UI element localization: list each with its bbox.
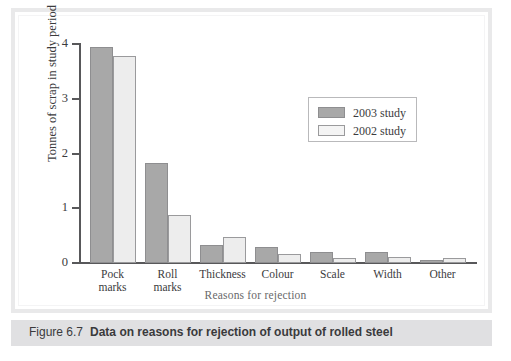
- bar-scale-2002: [333, 258, 356, 263]
- figure-caption-bar: Figure 6.7Data on reasons for rejection …: [11, 320, 492, 346]
- bar-other-2003: [420, 260, 443, 263]
- bar-group: [365, 44, 411, 263]
- legend-label: 2002 study: [353, 124, 406, 139]
- y-axis-tick: [72, 98, 80, 100]
- chart-legend: 2003 study2002 study: [308, 97, 417, 142]
- x-axis-label-line: Other: [407, 268, 478, 281]
- figure-caption: Figure 6.7Data on reasons for rejection …: [29, 325, 393, 339]
- bar-group: [255, 44, 301, 263]
- bar-roll-marks-2003: [145, 163, 168, 263]
- y-axis-tick: [72, 153, 80, 155]
- bar-group: [145, 44, 191, 263]
- bar-colour-2003: [255, 247, 278, 263]
- x-axis-label-line: marks: [132, 281, 203, 294]
- bar-group: [90, 44, 136, 263]
- legend-swatch-icon: [318, 125, 345, 136]
- bar-pock-marks-2003: [90, 47, 113, 263]
- bar-group: [420, 44, 466, 263]
- y-axis-title: Tonnes of scrap in study period: [45, 0, 60, 179]
- y-axis-tick: [72, 207, 80, 209]
- bar-width-2002: [388, 257, 411, 263]
- plot-area: [85, 44, 470, 263]
- y-axis-tick: [72, 43, 80, 45]
- bar-roll-marks-2002: [168, 215, 191, 263]
- y-axis-tick: [72, 262, 80, 264]
- x-axis-label-other: Other: [407, 268, 478, 281]
- bar-thickness-2002: [223, 237, 246, 263]
- bar-width-2003: [365, 252, 388, 263]
- bar-colour-2002: [278, 254, 301, 263]
- bar-other-2002: [443, 258, 466, 263]
- bar-pock-marks-2002: [113, 56, 136, 263]
- figure-title: Data on reasons for rejection of output …: [90, 325, 393, 339]
- legend-label: 2003 study: [353, 106, 406, 121]
- figure-container: 01234 Tonnes of scrap in study period Re…: [0, 0, 511, 361]
- legend-swatch-icon: [318, 107, 345, 118]
- y-axis-tick-label: 1: [50, 201, 68, 214]
- bar-group: [200, 44, 246, 263]
- bar-scale-2003: [310, 252, 333, 263]
- bar-thickness-2003: [200, 245, 223, 263]
- bar-group: [310, 44, 356, 263]
- figure-number: Figure 6.7: [29, 325, 83, 339]
- y-axis-tick-label: 0: [50, 256, 68, 269]
